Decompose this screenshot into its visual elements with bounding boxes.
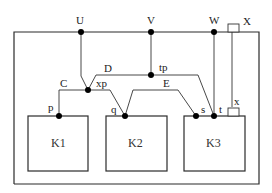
label-x: X xyxy=(243,16,251,27)
circuit-diagram xyxy=(0,0,272,193)
node-s xyxy=(193,113,199,119)
label-u: U xyxy=(76,15,84,26)
block-k3-label: K3 xyxy=(206,137,221,149)
label-w: W xyxy=(209,15,219,26)
label-x-small: x xyxy=(234,96,240,107)
label-tp: tp xyxy=(159,62,168,73)
node-u xyxy=(78,29,84,35)
block-k2-label: K2 xyxy=(128,137,143,149)
wire-xp-q xyxy=(88,90,125,116)
port-x-top xyxy=(228,24,239,32)
node-tp xyxy=(148,72,154,78)
node-p xyxy=(56,113,62,119)
node-xp xyxy=(85,87,91,93)
label-xp: xp xyxy=(96,78,107,89)
node-t xyxy=(211,113,217,119)
node-q xyxy=(122,113,128,119)
label-e: E xyxy=(163,78,170,89)
node-w xyxy=(211,29,217,35)
wire-e xyxy=(125,90,196,116)
label-c: C xyxy=(60,78,67,89)
wire-c xyxy=(59,90,88,116)
node-v xyxy=(148,29,154,35)
label-s: s xyxy=(201,104,205,115)
label-t: t xyxy=(219,104,222,115)
label-d: D xyxy=(104,63,112,74)
port-x-bottom xyxy=(228,108,239,116)
label-q: q xyxy=(111,104,117,115)
wire-u-xp xyxy=(81,32,88,90)
block-k1-label: K1 xyxy=(51,137,66,149)
label-p: p xyxy=(48,102,54,113)
label-v: V xyxy=(147,15,155,26)
